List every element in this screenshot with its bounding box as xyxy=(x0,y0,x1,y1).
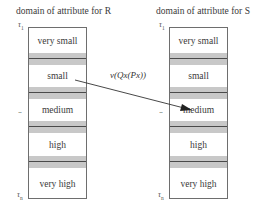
mapping-function-label: v(Qx(Px)) xyxy=(110,70,146,80)
mapping-arrow xyxy=(0,0,257,215)
